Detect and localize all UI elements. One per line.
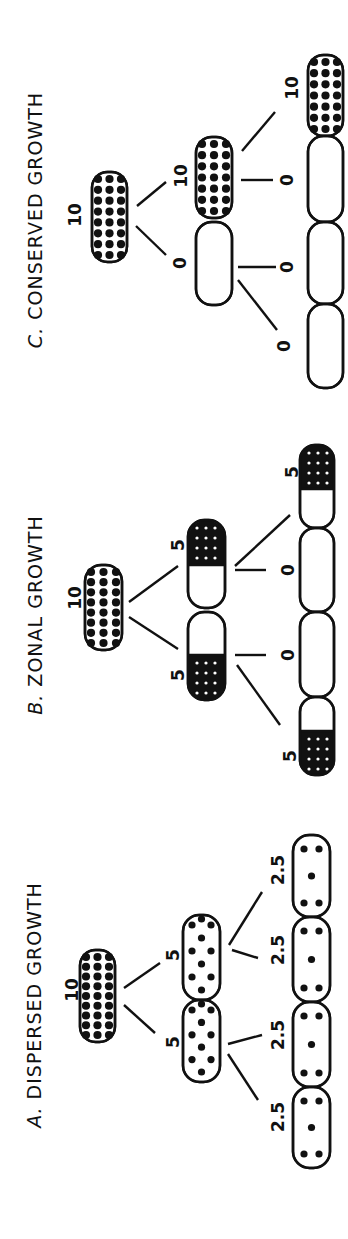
protein-dot [300,899,307,906]
protein-dot [198,1019,205,1026]
panel-letter: B. [24,687,46,715]
protein-dot [315,1069,322,1076]
gen2-cell [308,222,343,304]
protein-dot [82,972,90,980]
protein-dot [82,992,90,1000]
protein-dot [93,1002,101,1010]
protein-dot [87,588,95,596]
division-line [235,515,290,566]
division-line [124,1005,155,1033]
protein-dot [315,1150,322,1157]
labeled-zone [188,520,225,565]
protein-dot [207,973,214,980]
protein-dot [117,207,125,215]
protein-dot [105,963,113,971]
gen1-cell [183,915,220,1000]
protein-dot [300,1150,307,1157]
protein-dot [198,173,206,181]
panel-title: C. CONSERVED GROWTH [24,92,46,348]
protein-dot [321,80,329,88]
division-line [124,963,160,988]
protein-dot [93,1021,101,1029]
gen2-cell [308,136,343,222]
protein-dot [210,173,218,181]
gen2-cell [293,835,330,917]
panel-letter: C. [24,320,46,348]
gen2-value-label: 2.5 [268,1102,288,1132]
protein-dot [99,578,107,586]
protein-dot [82,1002,90,1010]
protein-dot [105,1021,113,1029]
gen1-cell [196,222,232,305]
protein-dot [310,103,318,111]
protein-dot [321,103,329,111]
protein-dot [210,185,218,193]
panel-title: A. DISPERSED GROWTH [23,882,45,1130]
gen1-value-label: 10 [171,164,191,188]
protein-dot [94,207,102,215]
protein-dot [99,608,107,616]
protein-dot [105,992,113,1000]
protein-dot [94,229,102,237]
protein-dot [105,207,113,215]
protein-dot [112,619,120,627]
protein-dot [315,984,322,991]
protein-dot [198,185,206,193]
protein-dot [99,568,107,576]
protein-dot [117,240,125,248]
protein-dot [105,982,113,990]
gen2-value-label: 5 [280,750,300,762]
gen2-value-label: 10 [282,76,302,100]
protein-dot [207,1056,214,1063]
protein-dot [300,984,307,991]
protein-dot [321,58,329,66]
protein-dot [321,69,329,77]
gen2-value-label: 0 [278,564,298,576]
protein-dot [87,608,95,616]
protein-dot [99,588,107,596]
protein-dot [310,69,318,77]
labeled-zone [300,445,334,489]
protein-dot [222,196,230,204]
gen2-value-label: 2.5 [268,855,288,885]
protein-dot [308,872,315,879]
gen1-value-label: 5 [163,949,183,961]
protein-dot [117,197,125,205]
protein-dot [87,578,95,586]
protein-dot [112,578,120,586]
protein-dot [93,953,101,961]
panel-title-text: CONSERVED GROWTH [24,92,46,320]
protein-dot [210,151,218,159]
gen2-cell [300,445,334,528]
protein-dot [87,598,95,606]
protein-dot [321,114,329,122]
root-cell [85,565,122,650]
root-cell [92,172,127,262]
protein-dot [198,986,205,993]
protein-dot [112,608,120,616]
protein-dot [315,1012,322,1019]
protein-dot [333,69,341,77]
protein-dot [300,927,307,934]
protein-dot [310,80,318,88]
protein-dot [105,186,113,194]
division-line [238,280,277,330]
root-value-label: 10 [65,203,85,227]
protein-dot [308,1041,315,1048]
diagram-layer: C. CONSERVED GROWTH1010010000B. ZONAL GR… [23,55,343,1168]
protein-dot [315,1097,322,1104]
protein-dot [198,151,206,159]
protein-dot [112,629,120,637]
protein-dot [300,1012,307,1019]
protein-dot [105,175,113,183]
protein-dot [93,1031,101,1039]
gen1-cell [188,520,225,608]
protein-dot [105,197,113,205]
protein-dot [188,947,195,954]
protein-dot [222,151,230,159]
protein-dot [333,103,341,111]
division-line [237,665,280,725]
protein-dot [99,639,107,647]
panel-title-text: DISPERSED GROWTH [23,882,45,1099]
gen2-cell [293,1087,330,1168]
